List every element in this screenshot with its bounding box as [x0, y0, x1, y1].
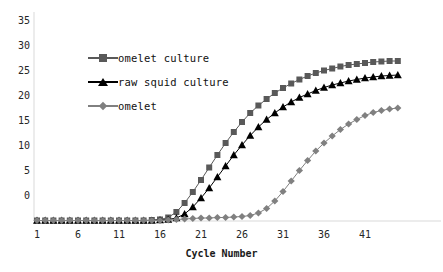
x-tick-label: 21 — [189, 230, 213, 240]
diamond-marker-icon — [88, 100, 118, 112]
x-tick-label: 31 — [271, 230, 295, 240]
y-tick-label: 20 — [4, 91, 30, 101]
legend-label: omelet culture — [118, 52, 209, 64]
legend: omelet culture raw squid culture omelet — [88, 46, 229, 118]
legend-label: raw squid culture — [118, 76, 229, 88]
triangle-marker-icon — [88, 76, 118, 88]
x-tick-label: 11 — [107, 230, 131, 240]
x-tick-label: 36 — [312, 230, 336, 240]
y-tick-label: 30 — [4, 41, 30, 51]
y-tick-label: 10 — [4, 141, 30, 151]
y-tick-label: 0 — [4, 191, 30, 201]
square-marker-icon — [88, 52, 118, 64]
y-tick-label: 25 — [4, 66, 30, 76]
legend-entry-omelet: omelet — [88, 94, 229, 118]
amplification-plot: 35 30 25 20 15 10 5 0 1 6 11 16 21 26 31… — [0, 0, 443, 272]
legend-entry-raw-squid-culture: raw squid culture — [88, 70, 229, 94]
y-tick-label: 35 — [4, 16, 30, 26]
x-tick-label: 1 — [25, 230, 49, 240]
y-tick-label: 5 — [4, 166, 30, 176]
legend-label: omelet — [118, 100, 157, 112]
y-tick-label: 15 — [4, 116, 30, 126]
x-tick-label: 6 — [66, 230, 90, 240]
x-tick-label: 16 — [148, 230, 172, 240]
x-tick-label: 41 — [353, 230, 377, 240]
x-axis-title: Cycle Number — [0, 248, 443, 259]
x-tick-label: 26 — [230, 230, 254, 240]
legend-entry-omelet-culture: omelet culture — [88, 46, 229, 70]
